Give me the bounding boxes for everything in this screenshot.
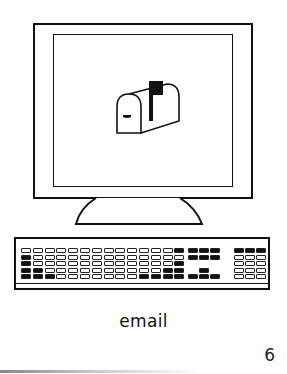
key — [68, 268, 78, 273]
key — [174, 261, 184, 266]
key — [21, 268, 31, 273]
key — [174, 255, 184, 260]
key — [104, 261, 114, 266]
key — [256, 274, 266, 279]
key — [80, 268, 90, 273]
key — [127, 274, 137, 279]
key — [92, 255, 102, 260]
key — [33, 248, 43, 253]
key — [151, 268, 161, 273]
key — [245, 248, 255, 253]
key — [139, 255, 149, 260]
key — [33, 274, 43, 279]
key — [163, 268, 173, 273]
key — [151, 261, 161, 266]
key — [80, 248, 90, 253]
key — [80, 255, 90, 260]
key — [104, 274, 114, 279]
key — [139, 268, 149, 273]
key — [234, 268, 244, 273]
key — [56, 261, 66, 266]
key — [127, 261, 137, 266]
page-number: 6 — [264, 345, 275, 365]
key — [115, 248, 125, 253]
numeric-keypad — [234, 248, 266, 279]
key — [45, 261, 55, 266]
key — [151, 248, 161, 253]
key — [115, 255, 125, 260]
key — [80, 274, 90, 279]
key — [68, 261, 78, 266]
key-gap — [188, 261, 198, 266]
key — [115, 261, 125, 266]
key — [151, 255, 161, 260]
key — [245, 255, 255, 260]
computer-monitor — [33, 23, 253, 199]
key — [104, 255, 114, 260]
key — [256, 255, 266, 260]
key-gap — [210, 268, 220, 273]
key — [104, 268, 114, 273]
key — [139, 248, 149, 253]
monitor-stand — [72, 196, 206, 228]
key — [68, 274, 78, 279]
keyboard — [14, 237, 270, 290]
key — [163, 255, 173, 260]
key — [21, 255, 31, 260]
key — [115, 274, 125, 279]
key — [92, 268, 102, 273]
key — [245, 268, 255, 273]
key — [256, 261, 266, 266]
key-gap — [210, 261, 220, 266]
key — [56, 255, 66, 260]
key — [256, 268, 266, 273]
key — [21, 261, 31, 266]
key — [151, 274, 161, 279]
key — [56, 274, 66, 279]
key — [127, 268, 137, 273]
key — [56, 268, 66, 273]
key — [92, 248, 102, 253]
key — [188, 274, 198, 279]
key — [56, 248, 66, 253]
key — [33, 255, 43, 260]
key — [245, 261, 255, 266]
key — [199, 274, 209, 279]
key — [234, 255, 244, 260]
key — [45, 255, 55, 260]
mailbox-icon — [111, 79, 187, 139]
key — [234, 261, 244, 266]
key — [163, 274, 173, 279]
key — [188, 248, 198, 253]
key — [174, 268, 184, 273]
key — [92, 274, 102, 279]
key-gap — [199, 261, 209, 266]
key — [45, 268, 55, 273]
key — [127, 248, 137, 253]
key — [163, 248, 173, 253]
key — [115, 268, 125, 273]
monitor-screen — [53, 34, 233, 187]
key — [174, 274, 184, 279]
key — [245, 274, 255, 279]
bottom-rule — [0, 370, 200, 373]
key — [210, 274, 220, 279]
key — [199, 248, 209, 253]
key — [174, 248, 184, 253]
key — [45, 274, 55, 279]
key — [45, 248, 55, 253]
key — [33, 261, 43, 266]
key — [210, 255, 220, 260]
key — [256, 248, 266, 253]
key — [163, 261, 173, 266]
key-gap — [188, 268, 198, 273]
caption: email — [0, 311, 287, 331]
key — [139, 274, 149, 279]
key — [21, 274, 31, 279]
key — [21, 248, 31, 253]
keyboard-edge — [16, 283, 268, 284]
key — [210, 248, 220, 253]
key — [68, 248, 78, 253]
key — [92, 261, 102, 266]
key — [199, 268, 209, 273]
